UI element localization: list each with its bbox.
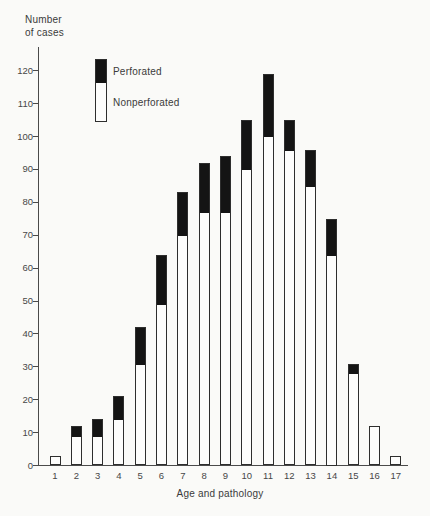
x-category-label: 12 xyxy=(279,471,299,481)
y-tick xyxy=(33,70,39,71)
y-tick xyxy=(33,103,39,104)
x-category-label: 5 xyxy=(130,471,150,481)
y-tick-label: 100 xyxy=(0,132,33,142)
bar-age-11 xyxy=(263,74,274,466)
x-category-label: 13 xyxy=(301,471,321,481)
bar-age-12-perforated-segment xyxy=(285,121,294,151)
y-tick xyxy=(33,399,39,400)
y-axis-title: Number of cases xyxy=(25,14,64,39)
y-tick xyxy=(33,235,39,236)
y-tick xyxy=(33,366,39,367)
legend-sample-bar xyxy=(95,59,107,122)
y-tick-label: 120 xyxy=(0,66,33,76)
y-tick-label: 0 xyxy=(0,461,33,471)
bar-age-5 xyxy=(135,327,146,465)
bar-age-6 xyxy=(156,255,167,466)
x-category-label: 1 xyxy=(45,471,65,481)
x-category-label: 8 xyxy=(194,471,214,481)
x-category-label: 10 xyxy=(237,471,257,481)
chart-figure: Number of cases Perforated Nonperforated… xyxy=(0,0,430,516)
legend-swatch-perforated xyxy=(96,60,106,83)
bar-age-3-perforated-segment xyxy=(93,420,102,436)
bar-age-8 xyxy=(199,163,210,466)
y-tick-label: 50 xyxy=(0,296,33,306)
x-category-label: 15 xyxy=(343,471,363,481)
y-tick xyxy=(33,432,39,433)
bar-age-15-perforated-segment xyxy=(349,365,358,375)
x-category-label: 4 xyxy=(109,471,129,481)
bar-age-13 xyxy=(305,150,316,466)
x-axis-title: Age and pathology xyxy=(120,488,320,499)
y-tick xyxy=(33,136,39,137)
bar-age-10 xyxy=(241,120,252,465)
bar-age-10-perforated-segment xyxy=(242,121,251,170)
bar-age-12 xyxy=(284,120,295,465)
bar-age-3 xyxy=(92,419,103,465)
y-tick-label: 20 xyxy=(0,395,33,405)
bar-age-5-perforated-segment xyxy=(136,328,145,364)
y-tick-label: 90 xyxy=(0,164,33,174)
legend-label-perforated: Perforated xyxy=(113,66,162,77)
bar-age-14 xyxy=(326,219,337,466)
y-tick-label: 40 xyxy=(0,329,33,339)
bar-age-4-perforated-segment xyxy=(114,397,123,420)
x-category-label: 2 xyxy=(66,471,86,481)
y-tick xyxy=(33,301,39,302)
bar-age-6-perforated-segment xyxy=(157,256,166,305)
y-tick xyxy=(33,333,39,334)
y-tick-label: 30 xyxy=(0,362,33,372)
y-tick-label: 80 xyxy=(0,197,33,207)
y-tick-label: 110 xyxy=(0,99,33,109)
bar-age-2-perforated-segment xyxy=(72,427,81,437)
y-tick xyxy=(33,268,39,269)
x-category-label: 9 xyxy=(215,471,235,481)
bar-age-13-perforated-segment xyxy=(306,151,315,187)
x-category-label: 3 xyxy=(88,471,108,481)
y-tick xyxy=(33,465,39,466)
bar-age-14-perforated-segment xyxy=(327,220,336,256)
bar-age-11-perforated-segment xyxy=(264,75,273,138)
y-axis-title-line2: of cases xyxy=(25,27,64,40)
bar-age-1 xyxy=(50,456,61,466)
bar-age-15 xyxy=(348,364,359,466)
bar-age-7-perforated-segment xyxy=(178,193,187,236)
bar-age-7 xyxy=(177,192,188,465)
x-category-label: 16 xyxy=(365,471,385,481)
x-category-label: 14 xyxy=(322,471,342,481)
x-category-label: 11 xyxy=(258,471,278,481)
bar-age-2 xyxy=(71,426,82,465)
x-category-label: 6 xyxy=(152,471,172,481)
y-axis-title-line1: Number xyxy=(25,14,64,27)
y-tick xyxy=(33,169,39,170)
y-tick-label: 70 xyxy=(0,230,33,240)
legend-label-nonperforated: Nonperforated xyxy=(113,97,180,108)
bar-age-8-perforated-segment xyxy=(200,164,209,213)
bar-age-9-perforated-segment xyxy=(221,157,230,213)
bar-age-9 xyxy=(220,156,231,465)
y-tick-label: 60 xyxy=(0,263,33,273)
bar-age-17 xyxy=(390,456,401,466)
bar-age-4 xyxy=(113,396,124,465)
x-category-label: 7 xyxy=(173,471,193,481)
x-category-label: 17 xyxy=(386,471,406,481)
y-tick-label: 10 xyxy=(0,428,33,438)
y-tick xyxy=(33,202,39,203)
y-axis-line xyxy=(38,47,39,466)
bar-age-16 xyxy=(369,426,380,465)
